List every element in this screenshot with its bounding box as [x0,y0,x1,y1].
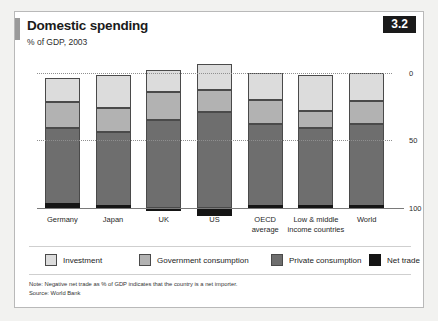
legend-item-private[interactable]: Private consumption [271,250,361,270]
axis-baseline [37,208,404,209]
legend-swatch-government [139,254,151,266]
chart-note: Note: Negative net trade as % of GDP ind… [29,280,237,289]
bar-segment-investment [248,73,283,100]
chart-legend: InvestmentGovernment consumptionPrivate … [29,250,411,270]
legend-item-government[interactable]: Government consumption [139,250,249,270]
bar-group [248,59,283,215]
bar-segment-investment [197,64,232,90]
figure-panel: Domestic spending % of GDP, 2003 3.2 100… [14,11,424,308]
bar-segment-government [146,92,181,120]
legend-label: Government consumption [157,256,249,265]
plot-area: 100500 GermanyJapanUKUSOECDaverageLow & … [37,59,392,215]
bar-segment-government [349,101,384,124]
legend-swatch-nettrade [369,254,381,266]
legend-label: Net trade [387,256,420,265]
x-axis-label-line: income countries [285,225,348,235]
bar-group [146,59,181,215]
bar-segment-investment [45,78,80,102]
legend-label: Investment [63,256,102,265]
screenshot-root: Domestic spending % of GDP, 2003 3.2 100… [0,0,438,321]
bar-segment-investment [349,73,384,101]
y-tick-label: 50 [409,136,417,145]
bar-group [298,59,333,215]
bar-segment-government [45,102,80,128]
legend-swatch-private [271,254,283,266]
bar-segment-private [146,120,181,208]
gridline-100 [37,73,392,74]
gridline-50 [37,140,392,141]
bar-group [96,59,131,215]
bar-segment-government [197,90,232,112]
legend-divider-top [29,246,411,247]
bar-segment-private [248,124,283,208]
chart-source: Source: World Bank [29,289,80,298]
chart-title: Domestic spending [27,18,148,33]
bar-segment-investment [298,75,333,110]
bar-group [197,59,232,215]
bar-segment-private [349,124,384,208]
y-tick-label: 0 [409,68,413,77]
bar-segment-private [96,132,131,208]
bar-segment-government [248,100,283,124]
bar-segment-investment [96,75,131,108]
figure-number-badge: 3.2 [383,16,416,33]
bar-group [45,59,80,215]
bar-segment-government [298,111,333,129]
x-axis-label: World [335,215,398,225]
bar-segment-government [96,108,131,132]
bar-segment-private [197,112,232,208]
bar-group [349,59,384,215]
legend-swatch-investment [45,254,57,266]
legend-item-investment[interactable]: Investment [45,250,102,270]
x-axis-label-line: World [335,215,398,225]
legend-item-nettrade[interactable]: Net trade [369,250,420,270]
y-tick-label: 100 [409,204,422,213]
legend-divider-bottom [29,274,411,275]
chart-subtitle: % of GDP, 2003 [27,37,87,47]
title-accent-bar [15,18,20,40]
bars-layer [37,59,392,215]
legend-label: Private consumption [289,256,361,265]
